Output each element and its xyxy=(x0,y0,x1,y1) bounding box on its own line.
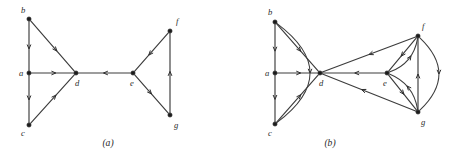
edge-path xyxy=(277,75,319,122)
vertex-label-b: b xyxy=(268,7,273,17)
vertex-e[interactable] xyxy=(131,71,135,75)
edge-path xyxy=(277,24,319,71)
edge-e-to-d xyxy=(323,71,385,74)
edge-a-to-d xyxy=(278,71,318,74)
vertex-label-f: f xyxy=(422,21,426,31)
vertex-e[interactable] xyxy=(385,71,389,75)
edge-e-to-d xyxy=(79,71,131,74)
vertex-b[interactable] xyxy=(27,17,31,21)
edge-a-to-c xyxy=(273,76,276,122)
edge-b-to-a xyxy=(27,22,30,71)
edge-g-to-f xyxy=(168,34,171,113)
vertex-label-a: a xyxy=(265,68,269,78)
edge-c-to-d xyxy=(277,75,319,122)
vertex-d[interactable] xyxy=(74,71,78,75)
edge-g-to-f xyxy=(416,39,419,110)
panel-a: abcdefg xyxy=(19,5,180,138)
panel-b: abcdefg xyxy=(265,7,441,138)
vertex-c[interactable] xyxy=(273,122,277,126)
vertex-f[interactable] xyxy=(416,34,420,38)
edge-f-to-e xyxy=(135,33,169,71)
vertex-c[interactable] xyxy=(27,123,31,127)
edge-b-to-a xyxy=(273,25,276,71)
vertex-b[interactable] xyxy=(273,20,277,24)
vertex-a[interactable] xyxy=(27,71,31,75)
edge-path xyxy=(420,38,439,110)
edge-f-to-g xyxy=(420,38,441,110)
vertex-label-a: a xyxy=(19,68,23,78)
vertex-label-g: g xyxy=(174,120,179,130)
vertex-a[interactable] xyxy=(273,71,277,75)
vertex-f[interactable] xyxy=(168,29,172,33)
edge-path xyxy=(31,21,75,71)
edge-a-to-c xyxy=(27,76,30,123)
vertex-label-f: f xyxy=(176,16,180,26)
vertex-d[interactable] xyxy=(318,71,322,75)
vertex-label-e: e xyxy=(130,78,134,88)
vertex-label-d: d xyxy=(75,78,80,88)
vertex-label-e: e xyxy=(383,78,387,88)
directed-graph-figure: abcdefg abcdefg (a) (b) xyxy=(0,0,454,158)
vertex-label-d: d xyxy=(319,78,324,88)
edge-c-to-d xyxy=(31,75,75,123)
panel-a-caption: (a) xyxy=(102,137,113,149)
vertex-g[interactable] xyxy=(416,110,420,114)
vertex-label-c: c xyxy=(268,128,272,138)
vertex-label-g: g xyxy=(421,117,426,127)
panel-b-caption: (b) xyxy=(324,137,335,149)
edge-a-to-d xyxy=(32,71,74,74)
vertex-label-c: c xyxy=(21,128,25,138)
edge-path xyxy=(31,75,75,123)
edge-b-to-d xyxy=(31,21,75,71)
edge-b-to-d xyxy=(277,24,319,71)
figure-container: abcdefg abcdefg (a) (b) xyxy=(0,0,454,158)
vertex-g[interactable] xyxy=(168,113,172,117)
edge-e-to-g xyxy=(135,75,169,113)
vertex-label-b: b xyxy=(21,5,26,15)
edge-path xyxy=(135,33,169,71)
